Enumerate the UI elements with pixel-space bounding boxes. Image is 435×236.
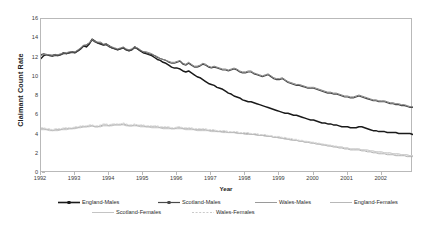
- y-axis-tick-labels: 0246810121416: [6, 0, 38, 236]
- legend-label: England-Males: [82, 199, 119, 206]
- x-tick-mark: [347, 172, 348, 175]
- x-tick-mark: [244, 172, 245, 175]
- x-axis-title: Year: [40, 185, 412, 192]
- x-tick-label: 1993: [56, 174, 92, 182]
- y-tick-label: 12: [10, 54, 38, 60]
- x-tick-label: 1994: [90, 174, 126, 182]
- legend-item[interactable]: Scotland-Females: [92, 208, 161, 217]
- legend-item[interactable]: Wales-Males: [255, 198, 311, 207]
- y-tick-label: 4: [10, 131, 38, 137]
- legend-label: Scotland-Males: [182, 199, 221, 206]
- y-tick-label: 14: [10, 34, 38, 40]
- x-tick-label: 1995: [124, 174, 160, 182]
- legend-line-swatch-icon: [330, 199, 352, 206]
- x-tick-mark: [278, 172, 279, 175]
- legend-item[interactable]: England-Males: [58, 198, 119, 207]
- legend-label: England-Females: [354, 199, 398, 206]
- series-line: [41, 124, 413, 158]
- y-tick-label: 6: [10, 111, 38, 117]
- legend-line-swatch-icon: [255, 199, 277, 206]
- legend-label: Wales-Females: [216, 209, 255, 216]
- legend-label: Wales-Males: [279, 199, 311, 206]
- series-line: [41, 125, 413, 156]
- legend-line-swatch-icon: [192, 209, 214, 216]
- legend-line-swatch-icon: [92, 209, 114, 216]
- x-tick-mark: [210, 172, 211, 175]
- series-line: [41, 40, 413, 108]
- x-tick-label: 1999: [260, 174, 296, 182]
- x-tick-label: 1992: [22, 174, 58, 182]
- series-line: [41, 39, 413, 134]
- legend-line-swatch-icon: [158, 199, 180, 206]
- y-tick-label: 8: [10, 92, 38, 98]
- x-tick-label: 1997: [192, 174, 228, 182]
- x-tick-mark: [142, 172, 143, 175]
- legend-line-swatch-icon: [58, 199, 80, 206]
- legend-item[interactable]: Wales-Females: [192, 208, 255, 217]
- x-tick-mark: [381, 172, 382, 175]
- x-tick-label: 1996: [158, 174, 194, 182]
- claimant-count-rate-chart: Claimant Count Rate 0246810121416 199219…: [0, 0, 435, 236]
- y-tick-label: 2: [10, 150, 38, 156]
- x-tick-mark: [108, 172, 109, 175]
- x-tick-label: 2001: [329, 174, 365, 182]
- x-tick-mark: [40, 172, 41, 175]
- legend-item[interactable]: England-Females: [330, 198, 398, 207]
- x-tick-mark: [74, 172, 75, 175]
- chart-legend: England-MalesScotland-MalesWales-MalesEn…: [40, 198, 412, 224]
- y-tick-label: 10: [10, 73, 38, 79]
- plot-area: [40, 18, 412, 172]
- legend-label: Scotland-Females: [116, 209, 161, 216]
- x-tick-mark: [176, 172, 177, 175]
- x-tick-label: 2002: [363, 174, 399, 182]
- series-line: [41, 39, 413, 107]
- x-tick-label: 2000: [295, 174, 331, 182]
- x-tick-mark: [313, 172, 314, 175]
- x-tick-label: 1998: [226, 174, 262, 182]
- plot-lines: [41, 19, 413, 173]
- y-tick-label: 16: [10, 15, 38, 21]
- legend-item[interactable]: Scotland-Males: [158, 198, 221, 207]
